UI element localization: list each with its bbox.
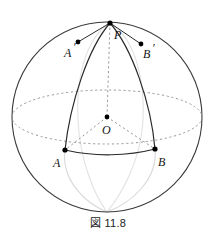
chord-ab	[65, 149, 155, 155]
radius-ob-dashed	[107, 117, 155, 149]
point-label-aprime-mark: ′	[73, 40, 76, 54]
point-marker-p	[107, 20, 112, 25]
sphere-diagram: Sphere with great-circle arcs from pole …	[0, 0, 216, 216]
point-label-bprime: B	[143, 47, 151, 61]
figure-caption: 図 11.8	[0, 214, 216, 230]
point-label-bprime-mark: ′	[152, 41, 155, 55]
point-label-aprime: A	[63, 46, 72, 60]
point-marker-o	[105, 115, 110, 120]
point-label-p: P	[113, 28, 122, 42]
point-marker-b	[152, 146, 157, 151]
point-marker-a	[62, 147, 67, 152]
radius-oa-dashed	[65, 117, 107, 150]
point-label-a: A	[52, 156, 61, 170]
axis-po-dashed	[107, 23, 110, 117]
figure-container: Sphere with great-circle arcs from pole …	[0, 0, 216, 239]
point-marker-bprime	[139, 42, 144, 47]
point-label-o: O	[102, 123, 111, 137]
point-label-b: B	[158, 155, 166, 169]
faint-meridian-right-arc	[107, 23, 143, 212]
point-marker-aprime	[76, 40, 81, 45]
